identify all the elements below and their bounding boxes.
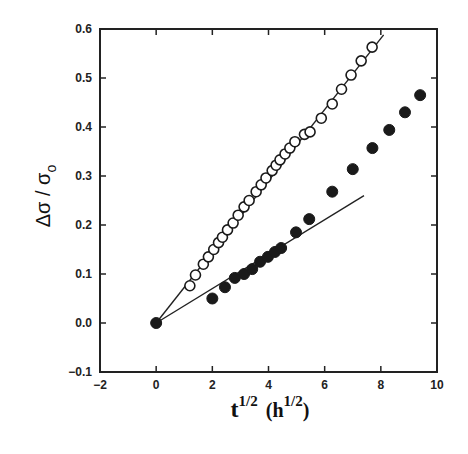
y-tick-label: 0.5: [75, 71, 92, 85]
filled-circle-point: [276, 243, 287, 254]
open-circle-point: [185, 281, 195, 291]
y-axis-title: Δσ / σo: [32, 165, 59, 228]
x-tick-label: 0: [153, 378, 160, 392]
x-tick-label: 6: [321, 378, 328, 392]
y-tick-label: 0.4: [75, 120, 92, 134]
y-tick-label: 0.0: [75, 316, 92, 330]
y-tick-label: −0.1: [68, 365, 92, 379]
filled-circle-point: [399, 107, 410, 118]
open-circle-point: [327, 99, 337, 109]
x-axis-title: t1/2(h1/2): [231, 393, 310, 422]
filled-circle-point: [304, 214, 315, 225]
filled-circle-point: [219, 282, 230, 293]
filled-circle-point: [384, 124, 395, 135]
open-circle-point: [337, 84, 347, 94]
plot-border: [100, 29, 437, 372]
y-tick-label: 0.1: [75, 267, 92, 281]
filled-circle-point: [151, 318, 162, 329]
open-circle-point: [356, 56, 366, 66]
open-circle-point: [346, 70, 356, 80]
x-tick-label: 10: [430, 378, 444, 392]
x-tick-label: 2: [209, 378, 216, 392]
filled-circle-point: [367, 143, 378, 154]
open-circle-point: [316, 113, 326, 123]
chart: −0.10.00.10.20.30.40.50.6 −20246810 t1/2…: [0, 0, 468, 454]
open-circle-point: [367, 42, 377, 52]
data-points: [151, 42, 426, 328]
open-circle-point: [244, 196, 254, 206]
filled-circle-point: [415, 90, 426, 101]
filled-circle-point: [291, 227, 302, 238]
filled-circle-point: [207, 293, 218, 304]
x-axis-ticks: −20246810: [93, 29, 444, 392]
x-tick-label: −2: [93, 378, 107, 392]
x-tick-label: 4: [265, 378, 272, 392]
y-tick-label: 0.6: [75, 22, 92, 36]
plot-frame: [100, 29, 437, 372]
open-circle-point: [290, 137, 300, 147]
y-tick-label: 0.2: [75, 218, 92, 232]
open-circle-point: [305, 127, 315, 137]
open-circle-point: [190, 270, 200, 280]
filled-circle-point: [327, 186, 338, 197]
x-tick-label: 8: [377, 378, 384, 392]
filled-circle-point: [347, 164, 358, 175]
y-tick-label: 0.3: [75, 169, 92, 183]
